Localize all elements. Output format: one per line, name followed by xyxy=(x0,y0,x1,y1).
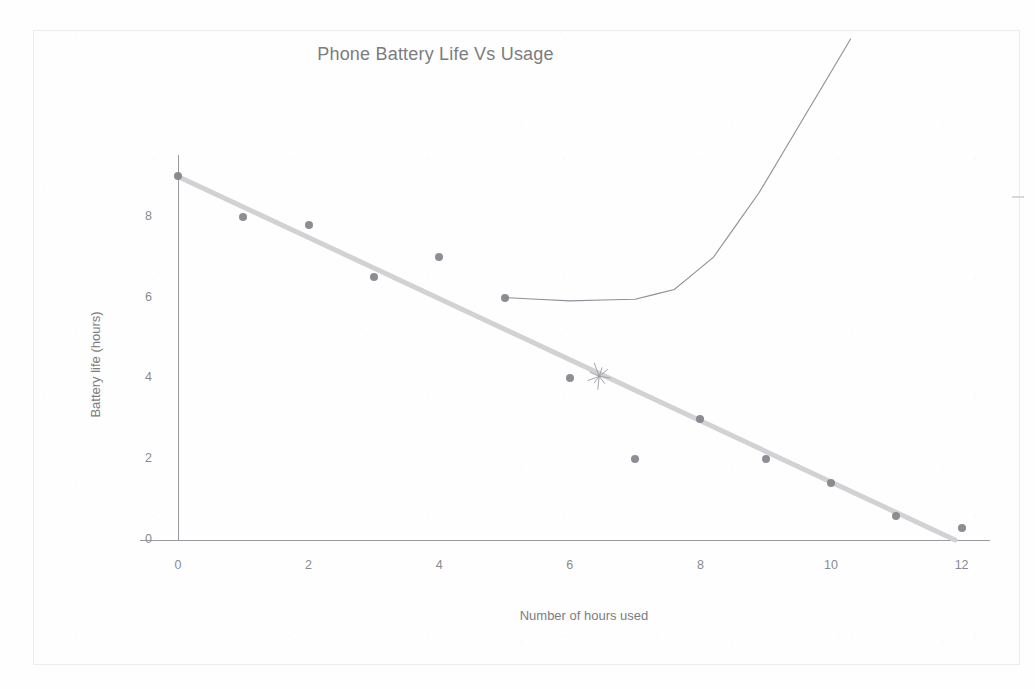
x-tick-label-4: 4 xyxy=(419,558,459,572)
y-tick-label-6: 6 xyxy=(112,290,152,304)
x-tick-label-10: 10 xyxy=(811,558,851,572)
chart-screenshot: Phone Battery Life Vs Usage 02468 024681… xyxy=(0,0,1035,689)
x-tick-label-0: 0 xyxy=(158,558,198,572)
data-point xyxy=(958,524,966,532)
data-point xyxy=(305,221,313,229)
right-margin-dash xyxy=(1012,196,1024,198)
y-tick-label-4: 4 xyxy=(112,370,152,384)
chart-title: Phone Battery Life Vs Usage xyxy=(0,44,953,65)
data-point xyxy=(501,294,509,302)
x-tick-label-8: 8 xyxy=(680,558,720,572)
y-axis-line xyxy=(178,155,179,541)
y-tick-label-8: 8 xyxy=(112,209,152,223)
data-point xyxy=(762,455,770,463)
x-axis-title: Number of hours used xyxy=(178,608,990,623)
y-axis-title: Battery life (hours) xyxy=(88,265,103,465)
x-tick-label-12: 12 xyxy=(942,558,982,572)
y-tick-label-0: 0 xyxy=(112,532,152,546)
x-tick-label-6: 6 xyxy=(550,558,590,572)
x-axis-line xyxy=(140,540,990,541)
y-tick-label-2: 2 xyxy=(112,451,152,465)
x-tick-label-2: 2 xyxy=(289,558,329,572)
